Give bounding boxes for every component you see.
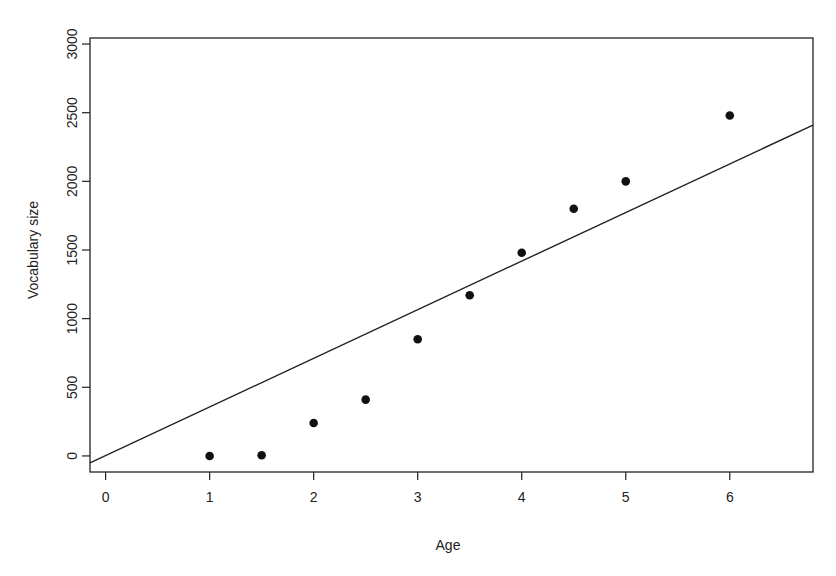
data-point — [205, 452, 214, 461]
regression-line — [90, 125, 813, 463]
x-tick-label: 3 — [414, 489, 422, 505]
x-axis: 0123456 — [102, 472, 734, 505]
scatter-chart: 050010001500200025003000 0123456 Age Voc… — [0, 0, 836, 576]
plot-frame — [90, 38, 813, 472]
x-tick-label: 2 — [310, 489, 318, 505]
y-tick-label: 500 — [64, 375, 80, 399]
y-tick-label: 1000 — [64, 303, 80, 334]
data-point — [465, 291, 474, 300]
data-point — [257, 451, 266, 460]
data-point — [725, 111, 734, 120]
y-tick-label: 3000 — [64, 28, 80, 59]
data-point — [621, 177, 630, 186]
fit-line — [90, 125, 813, 463]
x-tick-label: 6 — [726, 489, 734, 505]
x-tick-label: 4 — [518, 489, 526, 505]
x-tick-label: 5 — [622, 489, 630, 505]
y-axis: 050010001500200025003000 — [64, 28, 90, 460]
data-point — [517, 248, 526, 257]
data-point — [309, 419, 318, 428]
x-axis-label: Age — [436, 537, 461, 553]
x-tick-label: 0 — [102, 489, 110, 505]
y-tick-label: 2000 — [64, 166, 80, 197]
y-axis-label: Vocabulary size — [25, 201, 41, 299]
data-point — [413, 335, 422, 344]
plot-box — [90, 38, 813, 472]
y-tick-label: 1500 — [64, 234, 80, 265]
y-tick-label: 0 — [64, 452, 80, 460]
x-tick-label: 1 — [206, 489, 214, 505]
data-point — [569, 204, 578, 213]
y-tick-label: 2500 — [64, 97, 80, 128]
data-point — [361, 395, 370, 404]
